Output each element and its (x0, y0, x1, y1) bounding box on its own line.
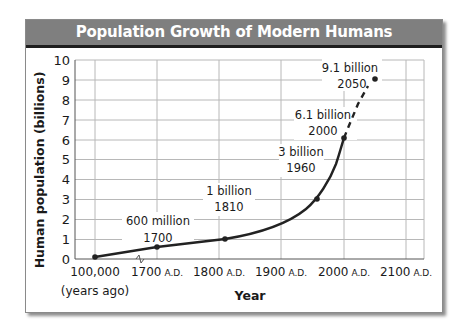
x-tick: 1900A.D. (255, 265, 307, 279)
point-1700 (154, 244, 160, 250)
y-tick: 4 (62, 172, 70, 187)
chart-plot: 0 1 2 3 4 5 6 7 8 9 10 Human population … (0, 0, 465, 328)
annotation-1700-value: 600 million (126, 214, 190, 228)
annotation-1960-year: 1960 (286, 161, 315, 175)
y-tick: 7 (62, 113, 70, 128)
y-axis-label: Human population (billions) (32, 72, 47, 269)
point-2050 (372, 76, 378, 82)
x-tick: 2000A.D. (318, 265, 370, 279)
x-tick: 1700A.D. (131, 265, 183, 279)
y-tick: 9 (62, 73, 70, 88)
point-100000 (92, 254, 98, 260)
annotation-2000-year: 2000 (308, 124, 337, 138)
y-tick: 5 (62, 152, 70, 167)
annotation-2000-value: 6.1 billion (295, 108, 351, 122)
y-tick: 1 (62, 232, 70, 247)
annotation-2050-value: 9.1 billion (322, 61, 378, 75)
y-tick: 0 (62, 252, 70, 267)
x-tick-sub: (years ago) (61, 284, 130, 298)
y-tick-labels: 0 1 2 3 4 5 6 7 8 9 10 (53, 53, 70, 267)
annotation-1810-year: 1810 (214, 200, 243, 214)
x-tick: 100,000 (70, 265, 120, 279)
y-tick: 6 (62, 133, 70, 148)
x-tick: 2100A.D. (380, 265, 432, 279)
annotation-1700-year: 1700 (143, 231, 172, 245)
point-2000 (341, 135, 347, 141)
point-1960 (314, 196, 320, 202)
y-tick: 3 (62, 192, 70, 207)
point-1810 (222, 236, 228, 242)
annotation-1960-value: 3 billion (278, 145, 323, 159)
annotation-2050-year: 2050 (337, 77, 366, 91)
x-tick: 1800A.D. (193, 265, 245, 279)
y-tick: 10 (53, 53, 70, 68)
annotation-1810-value: 1 billion (206, 184, 251, 198)
x-axis-label: Year (234, 288, 267, 303)
y-tick: 8 (62, 93, 70, 108)
y-tick: 2 (62, 212, 70, 227)
